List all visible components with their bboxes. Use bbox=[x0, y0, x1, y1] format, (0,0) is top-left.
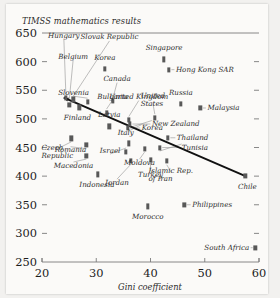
data-point-label: Islamic Rep.of Iran bbox=[149, 167, 194, 183]
y-axis-tick-label: 300 bbox=[0, 226, 37, 240]
data-point-label: Malaysia bbox=[207, 104, 239, 112]
data-point-marker bbox=[70, 136, 73, 141]
data-point-marker bbox=[124, 149, 127, 154]
data-point-marker bbox=[179, 101, 182, 106]
data-point-label: Jordan bbox=[105, 179, 129, 187]
data-point-marker bbox=[166, 135, 169, 140]
data-point-marker bbox=[165, 159, 168, 164]
data-point-label: Israel bbox=[100, 147, 121, 155]
data-point-label: Korea bbox=[142, 124, 163, 132]
data-point-marker bbox=[86, 99, 89, 104]
data-point-marker bbox=[78, 105, 81, 110]
data-point-label: Canada bbox=[103, 75, 130, 83]
data-point-marker bbox=[146, 204, 149, 209]
data-point-label: Morocco bbox=[132, 213, 163, 221]
data-point-marker bbox=[199, 105, 202, 110]
data-point-marker bbox=[72, 97, 75, 102]
y-axis-tick-label: 550 bbox=[0, 83, 37, 97]
data-point-label: Slovenia bbox=[58, 89, 89, 97]
x-axis-tick-label: 40 bbox=[136, 266, 166, 280]
data-point-marker bbox=[67, 102, 70, 107]
data-point-marker bbox=[127, 141, 130, 146]
x-axis-tick-label: 60 bbox=[244, 266, 274, 280]
data-point-label: Macedonia bbox=[54, 162, 94, 170]
data-point-label: Singapore bbox=[146, 44, 183, 52]
x-axis-label: Gini coefficient bbox=[70, 282, 230, 292]
data-point-marker bbox=[103, 66, 106, 71]
x-axis-tick-label: 30 bbox=[81, 266, 111, 280]
data-point-label: Italy bbox=[118, 129, 134, 137]
data-point-label: Belgium bbox=[58, 53, 88, 61]
data-point-marker bbox=[96, 172, 99, 177]
data-point-label: South Africa bbox=[204, 244, 249, 252]
data-point-marker bbox=[143, 146, 146, 151]
chart-page: TIMSS mathematics results HungaryBelgium… bbox=[0, 0, 280, 298]
data-point-marker bbox=[244, 174, 247, 179]
y-axis-tick-label: 500 bbox=[0, 112, 37, 126]
data-point-marker bbox=[253, 245, 256, 250]
data-point-label: Slovak Republic bbox=[81, 33, 139, 41]
data-point-label: Philippines bbox=[192, 201, 232, 209]
x-axis-tick-label: 50 bbox=[190, 266, 220, 280]
y-axis-tick-label: 350 bbox=[0, 198, 37, 212]
data-point-label: Finland bbox=[64, 114, 91, 122]
data-point-label: Tunisia bbox=[182, 144, 208, 152]
data-point-marker bbox=[108, 124, 111, 129]
data-point-label: Hong Kong SAR bbox=[176, 66, 234, 74]
y-axis-tick-label: 450 bbox=[0, 141, 37, 155]
data-point-label: Hungary bbox=[48, 32, 80, 40]
data-point-label: Russia bbox=[169, 89, 193, 97]
y-axis-tick-label: 400 bbox=[0, 169, 37, 183]
data-point-label: Thailand bbox=[177, 134, 208, 142]
data-point-label: UnitedStates bbox=[141, 92, 165, 108]
data-point-label: Romania bbox=[55, 146, 87, 154]
data-point-marker bbox=[158, 145, 161, 150]
data-point-marker bbox=[162, 57, 165, 62]
y-axis-tick-label: 600 bbox=[0, 55, 37, 69]
data-point-marker bbox=[167, 67, 170, 72]
data-point-marker bbox=[182, 202, 185, 207]
data-point-label: Korea bbox=[94, 54, 115, 62]
y-axis-tick-label: 650 bbox=[0, 26, 37, 40]
x-axis-tick-label: 20 bbox=[27, 266, 57, 280]
data-point-label: Latvia bbox=[98, 111, 120, 119]
data-point-label: Chile bbox=[238, 183, 257, 191]
